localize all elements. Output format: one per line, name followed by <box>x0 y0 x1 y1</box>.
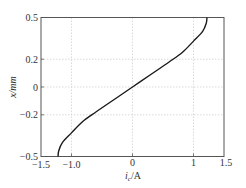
tick-marks <box>41 59 194 156</box>
xtick-label: −1.0 <box>62 159 80 170</box>
x-axis-label-unit: /A <box>131 170 142 181</box>
x-axis-label: ic/A <box>125 170 142 183</box>
ytick-label: −0.5 <box>20 151 38 162</box>
xtick-label: 1.5 <box>220 157 233 168</box>
y-axis-label: x/mm <box>7 76 18 99</box>
xtick-label: 0 <box>130 157 135 168</box>
chart: −1.5 −1.0 0 1 1.5 0.5 0.2 0 −0.2 −0.5 ic… <box>0 0 246 188</box>
ytick-label: 0.5 <box>26 12 39 23</box>
ytick-label: 0.2 <box>26 54 39 65</box>
xtick-label: 1 <box>191 157 196 168</box>
ytick-label: 0 <box>33 82 38 93</box>
ytick-label: −0.2 <box>20 109 38 120</box>
